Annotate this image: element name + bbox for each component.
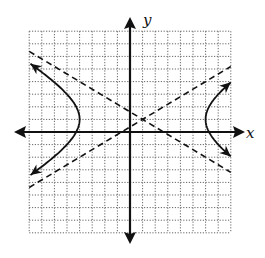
y-axis-label: y	[142, 11, 152, 29]
x-axis-label: x	[246, 124, 255, 142]
axes: y x	[14, 11, 255, 244]
hyperbola-graph: y x	[0, 0, 265, 258]
